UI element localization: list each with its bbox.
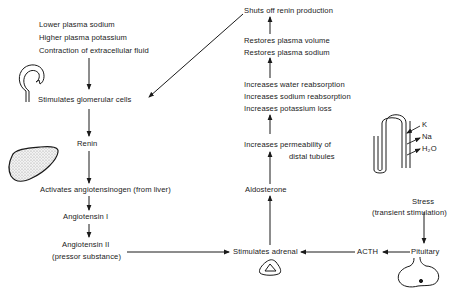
liver-icon xyxy=(9,147,58,182)
diagram-canvas: Lower plasma sodium Higher plasma potass… xyxy=(0,0,454,290)
node-stress-note: (transient stimulation) xyxy=(372,208,447,218)
tubule-label-k: K xyxy=(422,120,427,130)
node-aldosterone: Aldosterone xyxy=(245,185,287,195)
node-shuts-off-renin: Shuts off renin production xyxy=(244,6,333,16)
node-angiotensin-1: Angiotensin I xyxy=(63,212,108,222)
node-acth: ACTH xyxy=(357,247,378,257)
effect-potassium-loss: Increases potassium loss xyxy=(244,104,332,114)
trigger-high-potassium: Higher plasma potassium xyxy=(39,33,127,43)
tubule-label-h2o: H₂O xyxy=(422,144,437,154)
effect-restores-volume: Restores plasma volume xyxy=(244,36,330,46)
node-glomerular-cells: Stimulates glomerular cells xyxy=(38,95,131,105)
node-renin: Renin xyxy=(77,139,97,149)
node-angiotensinogen: Activates angiotensinogen (from liver) xyxy=(40,185,171,195)
node-stimulates-adrenal: Stimulates adrenal xyxy=(233,247,298,257)
node-angiotensin-2-note: (pressor substance) xyxy=(52,252,121,262)
arrow-shutoff-to-glomerular xyxy=(149,14,243,97)
node-pituitary: Pituitary xyxy=(411,247,439,257)
effect-sodium-reabsorption: Increases sodium reabsorption xyxy=(244,92,351,102)
node-permeability-line2: distal tubules xyxy=(289,152,335,162)
kidney-tubule-icon xyxy=(374,115,410,173)
tubule-label-na: Na xyxy=(422,132,432,142)
arrow-tubule-h2o xyxy=(407,149,420,155)
effect-restores-sodium: Restores plasma sodium xyxy=(244,48,330,58)
adrenal-gland-icon xyxy=(259,260,280,276)
node-stress: Stress xyxy=(412,197,434,207)
trigger-fluid-contraction: Contraction of extracellular fluid xyxy=(39,46,149,56)
pituitary-gland-icon xyxy=(398,257,438,287)
arrow-tubule-na xyxy=(407,138,420,144)
node-permeability-line1: Increases permeability of xyxy=(244,140,331,150)
node-angiotensin-2: Angiotensin II xyxy=(62,240,109,250)
trigger-low-sodium: Lower plasma sodium xyxy=(39,20,115,30)
effect-water-reabsorption: Increases water reabsorption xyxy=(244,80,345,90)
arrow-tubule-k xyxy=(407,126,420,133)
